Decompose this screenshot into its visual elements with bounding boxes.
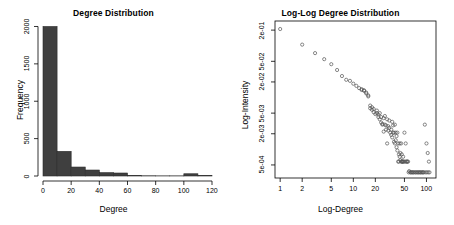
scatter-point [279, 27, 282, 30]
x-tick-label: 120 [206, 187, 218, 194]
scatter-point [323, 58, 326, 61]
scatter-point [330, 63, 333, 66]
y-tick-label: 5e-04 [258, 156, 265, 174]
y-axis-loglog [271, 30, 275, 165]
histogram-bar [85, 170, 99, 176]
scatter-point [335, 68, 338, 71]
histogram-bar [113, 173, 127, 176]
y-tick-label: 2e-03 [258, 125, 265, 143]
scatter-point [423, 123, 426, 126]
x-axis-degree-histogram [43, 181, 212, 185]
x-tick-label: 0 [41, 187, 45, 194]
histogram-bar [99, 173, 113, 176]
y-axis-title-log-intensity: Log-Intensity [240, 45, 250, 165]
scatter-point [390, 128, 393, 131]
y-tick-label: 1500 [23, 56, 30, 72]
histogram-bar [71, 167, 85, 176]
histogram-bars [43, 26, 212, 176]
histogram-bar [184, 174, 198, 176]
figure-panel-container: Degree Distribution Degree Frequency 050… [0, 0, 454, 225]
loglog-scatter-panel: Log-Log Degree Distribution Log-Degree L… [227, 0, 454, 225]
scatter-point [427, 160, 430, 163]
scatter-point [352, 82, 355, 85]
scatter-point [403, 131, 406, 134]
degree-histogram-panel: Degree Distribution Degree Frequency 050… [0, 0, 227, 225]
scatter-point [395, 135, 398, 138]
y-tick-label: 1000 [23, 93, 30, 109]
x-axis-title-log-degree: Log-Degree [227, 204, 454, 214]
plot-frame [275, 21, 436, 178]
histogram-canvas [0, 0, 227, 225]
histogram-bar [57, 151, 71, 176]
y-tick-label: 500 [23, 133, 30, 145]
histogram-bar [43, 26, 57, 176]
x-tick-label: 10 [349, 185, 357, 192]
scatter-point [391, 120, 394, 123]
y-tick-label: 2000 [23, 19, 30, 35]
x-tick-label: 40 [95, 187, 103, 194]
x-tick-label: 5 [329, 185, 333, 192]
x-tick-label: 2 [300, 185, 304, 192]
scatter-point [426, 151, 429, 154]
x-tick-label: 20 [371, 185, 379, 192]
scatter-point [348, 79, 351, 82]
y-tick-label: 0 [23, 174, 30, 178]
y-tick-label: 2e-02 [258, 73, 265, 91]
scatter-point [301, 43, 304, 46]
scatter-point [396, 149, 399, 152]
scatter-point [395, 146, 398, 149]
x-axis-loglog [280, 178, 426, 182]
scatter-points [279, 27, 432, 174]
x-tick-label: 50 [400, 185, 408, 192]
scatter-point [340, 74, 343, 77]
y-tick-label: 2e-01 [258, 21, 265, 39]
x-tick-label: 100 [420, 185, 432, 192]
scatter-point [313, 52, 316, 55]
scatter-point [345, 78, 348, 81]
scatter-point [404, 142, 407, 145]
x-tick-label: 100 [178, 187, 190, 194]
x-axis-title-degree: Degree [0, 204, 227, 214]
scatter-point [355, 84, 358, 87]
x-tick-label: 1 [278, 185, 282, 192]
x-tick-label: 20 [67, 187, 75, 194]
x-tick-label: 60 [124, 187, 132, 194]
y-tick-label: 5e-02 [258, 52, 265, 70]
y-axis-degree-histogram [34, 26, 38, 176]
scatter-point [425, 142, 428, 145]
scatter-point [386, 142, 389, 145]
x-tick-label: 80 [152, 187, 160, 194]
y-tick-label: 5e-03 [258, 104, 265, 122]
